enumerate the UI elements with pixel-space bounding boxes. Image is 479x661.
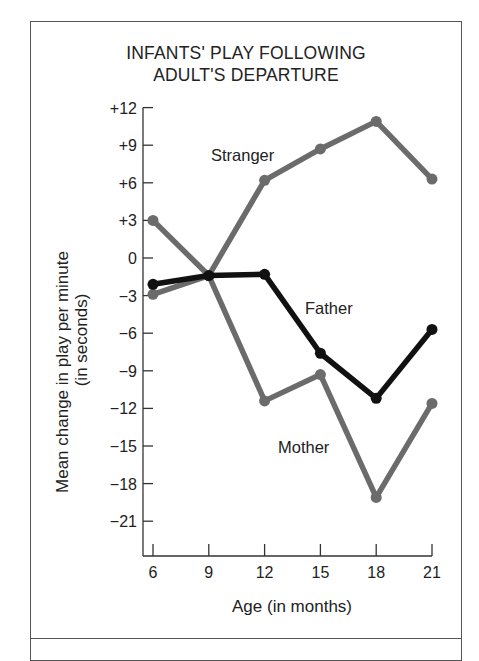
data-point-stranger <box>259 175 270 186</box>
x-tick-label: 9 <box>204 564 213 581</box>
series-line-father <box>153 274 432 398</box>
y-tick-label: −18 <box>110 476 137 493</box>
data-point-father <box>203 270 214 281</box>
y-tick-label: −6 <box>119 325 137 342</box>
data-point-stranger <box>148 289 159 300</box>
data-point-mother <box>259 395 270 406</box>
series-label-father: Father <box>305 299 353 317</box>
data-point-father <box>427 324 438 335</box>
x-tick-label: 12 <box>256 564 274 581</box>
data-point-father <box>148 279 159 290</box>
x-tick-label: 21 <box>423 564 441 581</box>
x-axis-title: Age (in months) <box>232 597 352 616</box>
y-tick-label: +3 <box>119 212 137 229</box>
series-label-stranger: Stranger <box>211 146 275 164</box>
y-axis-title: Mean change in play per minute <box>53 251 72 493</box>
y-tick-label: −9 <box>119 363 137 380</box>
data-point-father <box>371 393 382 404</box>
y-tick-label: 0 <box>128 250 137 267</box>
y-axis-subtitle: (in seconds) <box>72 294 91 387</box>
y-tick-label: −12 <box>110 400 137 417</box>
x-tick-label: 15 <box>312 564 330 581</box>
y-tick-label: −3 <box>119 288 137 305</box>
y-tick-label: +9 <box>119 137 137 154</box>
data-point-mother <box>315 369 326 380</box>
data-point-stranger <box>427 174 438 185</box>
data-point-mother <box>148 215 159 226</box>
y-tick-label: −15 <box>110 438 137 455</box>
y-tick-label: +12 <box>110 100 137 117</box>
y-tick-label: −21 <box>110 513 137 530</box>
series-label-mother: Mother <box>278 438 330 456</box>
data-point-mother <box>371 492 382 503</box>
series-line-stranger <box>153 121 432 294</box>
data-point-father <box>315 348 326 359</box>
x-tick-label: 18 <box>367 564 385 581</box>
x-tick-label: 6 <box>149 564 158 581</box>
data-point-father <box>259 269 270 280</box>
y-tick-label: +6 <box>119 175 137 192</box>
data-point-mother <box>427 398 438 409</box>
data-point-stranger <box>371 116 382 127</box>
data-point-stranger <box>315 143 326 154</box>
